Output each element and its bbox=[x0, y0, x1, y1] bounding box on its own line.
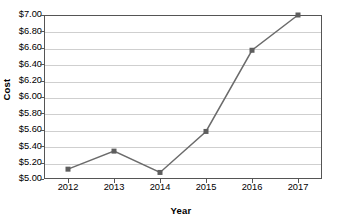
data-point-marker bbox=[296, 13, 301, 18]
data-point-marker bbox=[112, 149, 117, 154]
line-chart: Cost $7.00$6.80$6.60$6.40$6.20$6.00$5.80… bbox=[0, 0, 349, 222]
data-point-marker bbox=[250, 48, 255, 53]
data-series-layer bbox=[0, 0, 349, 222]
data-point-marker bbox=[158, 170, 163, 175]
x-axis-title: Year bbox=[40, 205, 322, 216]
series-line-cost bbox=[68, 15, 298, 172]
data-point-marker bbox=[66, 167, 71, 172]
data-point-marker bbox=[204, 129, 209, 134]
